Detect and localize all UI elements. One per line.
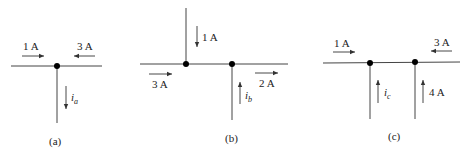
panel-c: 1 A 3 A ic 4 A (c) [323, 36, 460, 143]
panel-b: 1 A 3 A 2 A ib (b) [140, 8, 288, 145]
panel-caption: (b) [225, 132, 238, 145]
node-right [412, 59, 418, 65]
current-label: 4 A [429, 86, 445, 98]
current-label: 3 A [152, 78, 168, 90]
panel-caption: (c) [388, 130, 401, 143]
current-label: ic [384, 86, 391, 101]
current-label: 3 A [77, 40, 93, 52]
panel-a: 1 A 3 A ia (a) [11, 40, 102, 148]
node [54, 63, 60, 69]
wire-horizontal [323, 62, 460, 63]
node-left [367, 60, 373, 66]
node-right [229, 61, 235, 67]
current-label: ia [71, 91, 78, 106]
kcl-figure: 1 A 3 A ia (a) 1 A 3 A 2 A ib (b) 1 A 3 [0, 0, 470, 157]
current-label: 1 A [23, 40, 39, 52]
node-left [183, 61, 189, 67]
panel-caption: (a) [49, 135, 62, 148]
current-label: 3 A [434, 36, 450, 48]
current-label: 1 A [202, 31, 218, 43]
current-label: 1 A [334, 37, 350, 49]
current-label: ib [245, 89, 252, 104]
current-label: 2 A [259, 77, 275, 89]
